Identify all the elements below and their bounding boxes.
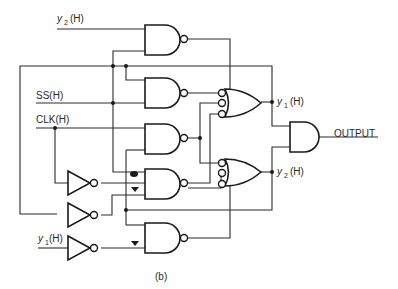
and-gate-output: [290, 122, 319, 152]
nand-gate-4: [145, 169, 188, 199]
svg-text:y: y: [37, 233, 44, 244]
label-y2-output: y 2 (H): [276, 166, 304, 179]
svg-text:y: y: [276, 166, 283, 177]
label-clk-input: CLK(H): [36, 114, 69, 125]
svg-text:(H): (H): [70, 13, 84, 24]
or-gate-1: [219, 89, 262, 118]
svg-text:2: 2: [64, 19, 68, 26]
label-y1-input: y 1 (H): [37, 233, 63, 246]
svg-text:y: y: [276, 96, 283, 107]
or-gate-2: [219, 159, 262, 188]
inverter-3: [68, 236, 98, 260]
svg-text:(H): (H): [49, 233, 63, 244]
nand-gate-5: [145, 223, 188, 253]
triangle-markers: [130, 171, 139, 246]
svg-text:2: 2: [284, 172, 288, 179]
label-y1-output: y 1 (H): [276, 96, 304, 109]
inverter-2: [68, 203, 98, 227]
svg-text:(H): (H): [290, 166, 304, 177]
logic-circuit-diagram: y 2 (H) SS(H) CLK(H) y 1 (H) y 1 (H) y 2…: [0, 0, 398, 289]
nand-gate-1: [145, 25, 188, 55]
svg-text:y: y: [56, 13, 63, 24]
figure-caption: (b): [155, 271, 167, 282]
svg-text:1: 1: [284, 102, 288, 109]
nand-gate-3: [145, 124, 188, 154]
inverter-1: [68, 171, 98, 195]
nand-gate-2: [145, 78, 188, 108]
svg-text:(H): (H): [290, 96, 304, 107]
label-y2-input: y 2 (H): [56, 13, 84, 26]
label-ss-input: SS(H): [36, 90, 63, 101]
